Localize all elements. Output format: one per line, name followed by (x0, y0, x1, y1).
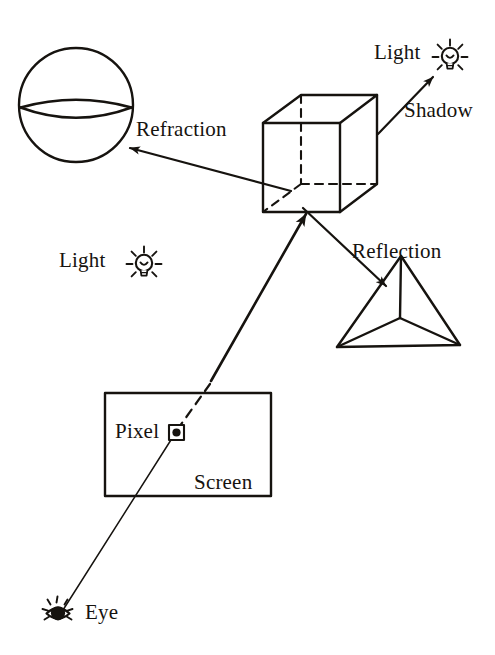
sphere-object (19, 48, 133, 162)
label-eye: Eye (85, 602, 118, 623)
ray-refraction (130, 148, 291, 191)
light-bulb-icon-top (433, 40, 468, 70)
label-pixel: Pixel (115, 421, 159, 442)
light-bulb-icon-middle (127, 247, 162, 277)
cube-object (263, 95, 377, 212)
label-shadow: Shadow (404, 100, 473, 121)
eye-icon (43, 597, 73, 621)
ray-screen-to-cube (211, 214, 306, 381)
label-light-top: Light (374, 42, 421, 63)
ray-pixel-through-screen (177, 384, 210, 430)
label-reflection: Reflection (352, 241, 441, 262)
pixel-marker (169, 425, 184, 440)
tetrahedron-object (337, 256, 460, 347)
label-screen: Screen (194, 472, 252, 493)
label-light-middle: Light (59, 250, 106, 271)
ray-tracing-diagram: Refraction Shadow Reflection Light Light… (0, 0, 495, 655)
ray-eye-to-pixel (63, 432, 176, 610)
label-refraction: Refraction (136, 119, 227, 140)
